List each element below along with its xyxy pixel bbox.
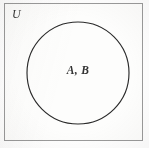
- venn-diagram-figure: U A, B: [0, 0, 149, 148]
- set-label-a-b: A, B: [0, 65, 149, 77]
